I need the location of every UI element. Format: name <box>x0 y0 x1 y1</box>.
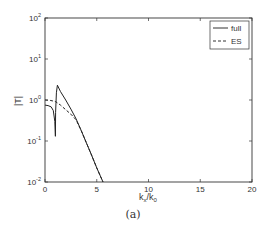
legend: full ES <box>210 21 249 49</box>
line-chart: 0510152010-210-1100101102 full ES kx/k0 … <box>0 0 268 236</box>
x-tick-label: 20 <box>248 185 257 194</box>
legend-label-es: ES <box>231 37 242 46</box>
y-tick-label: 10-2 <box>27 176 41 187</box>
y-tick-label: 102 <box>29 12 41 23</box>
legend-box <box>210 21 249 49</box>
legend-label-full: full <box>231 24 241 33</box>
plot-lines <box>45 85 103 182</box>
series-full-line <box>45 85 103 182</box>
x-axis-label: kx/k0 <box>139 192 158 203</box>
x-tick-label: 15 <box>196 185 205 194</box>
y-tick-label: 100 <box>29 94 41 105</box>
y-axis-label: |T| <box>13 96 23 106</box>
y-tick-label: 10-1 <box>27 135 41 146</box>
x-tick-label: 5 <box>95 185 100 194</box>
figure-caption: (a) <box>125 208 140 221</box>
y-tick-label: 101 <box>29 53 41 64</box>
x-tick-label: 0 <box>43 185 48 194</box>
